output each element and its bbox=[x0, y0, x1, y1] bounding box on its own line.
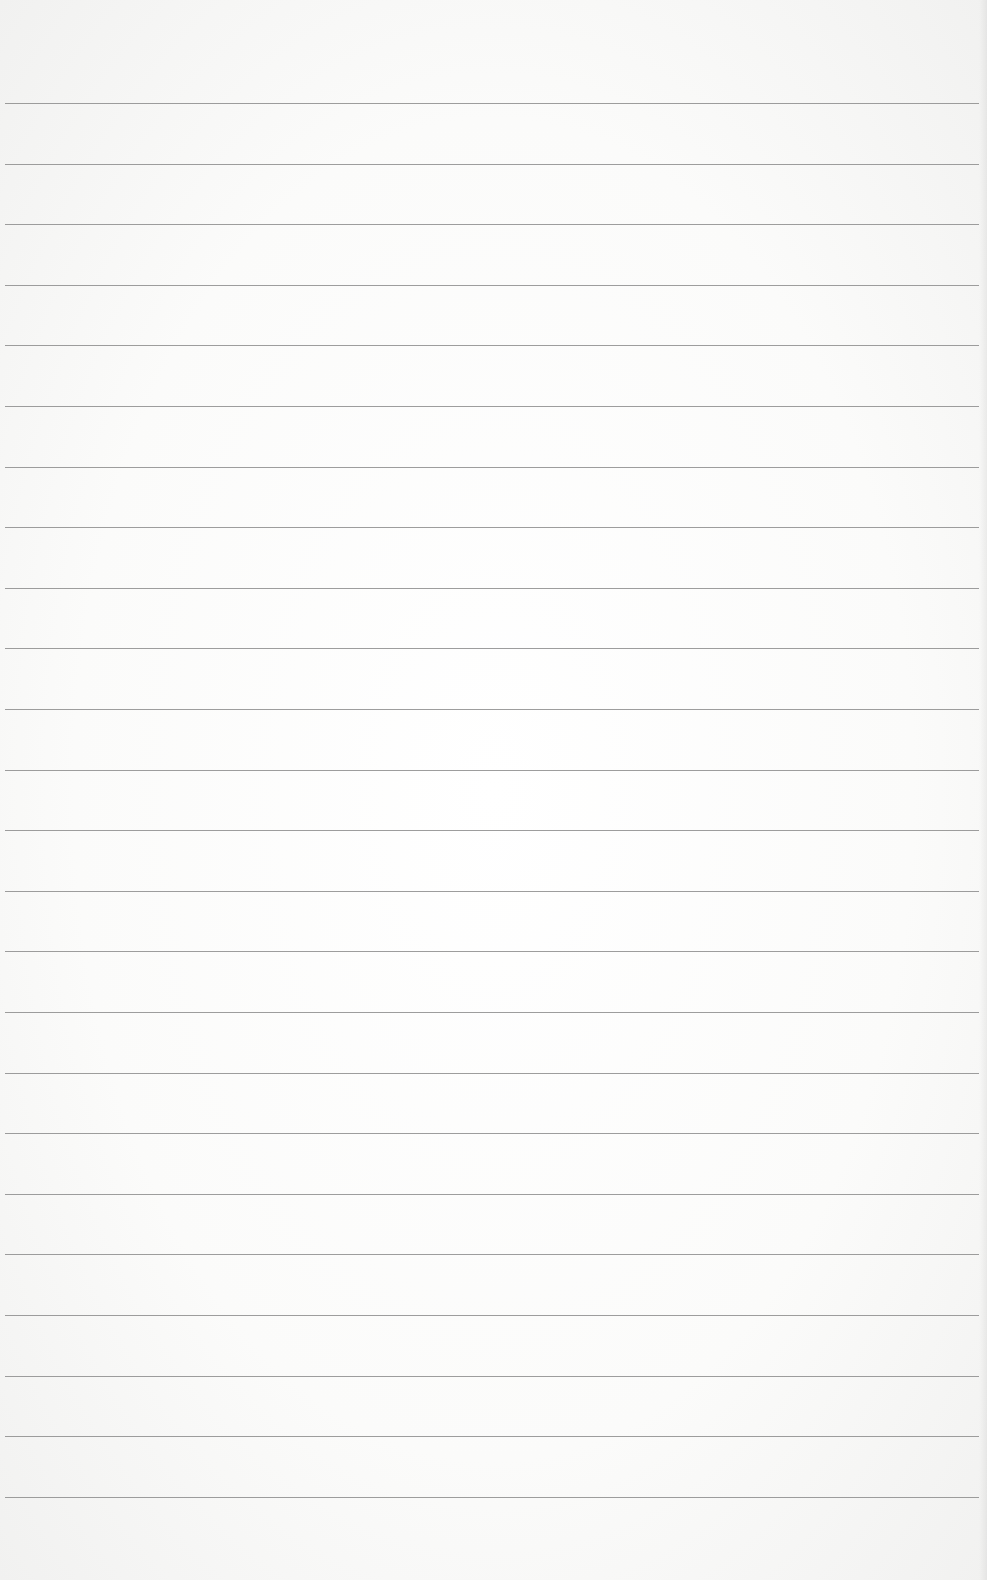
ruled-line bbox=[5, 224, 979, 225]
ruled-line bbox=[5, 830, 979, 831]
ruled-line bbox=[5, 709, 979, 710]
ruled-line bbox=[5, 103, 979, 104]
ruled-line bbox=[5, 467, 979, 468]
ruled-line bbox=[5, 406, 979, 407]
ruled-line bbox=[5, 770, 979, 771]
ruled-paper-sheet bbox=[0, 0, 987, 1580]
ruled-line bbox=[5, 1497, 979, 1498]
ruled-line bbox=[5, 1254, 979, 1255]
ruled-line bbox=[5, 527, 979, 528]
ruled-line bbox=[5, 1012, 979, 1013]
ruled-line bbox=[5, 1073, 979, 1074]
ruled-line bbox=[5, 588, 979, 589]
page-edge-shadow bbox=[979, 0, 987, 1580]
ruled-line bbox=[5, 1436, 979, 1437]
ruled-line bbox=[5, 951, 979, 952]
ruled-line bbox=[5, 285, 979, 286]
ruled-line bbox=[5, 345, 979, 346]
ruled-line bbox=[5, 648, 979, 649]
ruled-line bbox=[5, 1376, 979, 1377]
ruled-line bbox=[5, 1133, 979, 1134]
ruled-line bbox=[5, 891, 979, 892]
ruled-line bbox=[5, 1194, 979, 1195]
ruled-line bbox=[5, 1315, 979, 1316]
ruled-line bbox=[5, 164, 979, 165]
